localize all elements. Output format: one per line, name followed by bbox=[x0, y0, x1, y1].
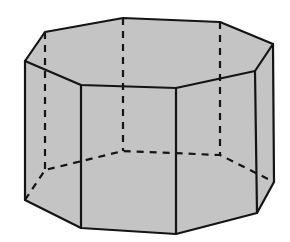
visible-faces bbox=[25, 18, 274, 234]
octagonal-prism-diagram bbox=[0, 0, 290, 242]
diagram-canvas bbox=[0, 0, 290, 242]
front-right-face bbox=[176, 71, 257, 234]
vertical-edge-5 bbox=[273, 44, 274, 182]
front-center-face bbox=[81, 85, 176, 234]
front-left-face bbox=[25, 61, 81, 228]
